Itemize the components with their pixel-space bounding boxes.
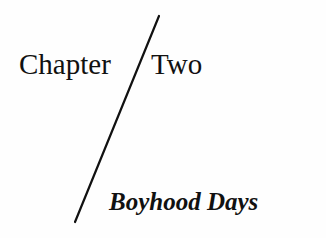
chapter-subtitle: Boyhood Days [109,189,258,214]
chapter-title-page: Chapter Two Boyhood Days [0,0,326,238]
chapter-label: Chapter [19,50,111,79]
chapter-number: Two [151,50,202,79]
